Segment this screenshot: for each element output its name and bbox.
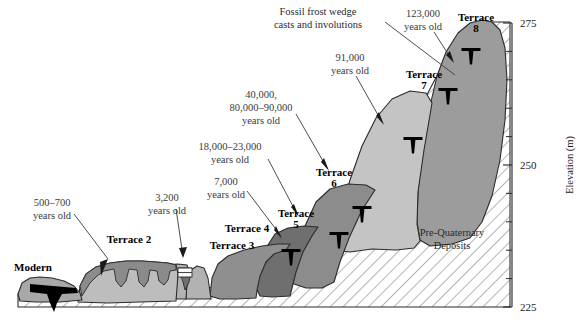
age-line-1: 7,000 — [214, 176, 238, 187]
age-line-2: years old — [331, 65, 370, 76]
age-line-1: 123,000 — [406, 8, 440, 19]
axis-label-elevation: Elevation (m) — [564, 135, 576, 194]
age-line-1: 3,200 — [155, 192, 179, 203]
age-line-2: years old — [211, 154, 250, 165]
label-terrace-3: Terrace 3 — [210, 239, 255, 251]
age-line-2: years old — [33, 210, 72, 221]
annotation-line-2: casts and involutions — [274, 19, 362, 30]
annotation-line-1: Fossil frost wedge — [280, 6, 357, 17]
age-line-1: 500–700 — [34, 197, 71, 208]
label-terrace-2: Terrace 2 — [107, 233, 152, 245]
annotation-line-1: Pre-Quaternary — [420, 227, 485, 238]
terrace-cross-section-figure: 275 250 225 Elevation (m) Modern Terrace… — [0, 0, 585, 329]
label-terrace-7-number: 7 — [421, 79, 427, 91]
age-line-1: 18,000–23,000 — [199, 141, 262, 152]
axis-tick-275: 275 — [520, 17, 537, 29]
age-line-1: 40,000, — [245, 89, 277, 100]
age-line-3: years old — [242, 115, 281, 126]
axis-tick-250: 250 — [520, 159, 537, 171]
annotation-line-2: Deposits — [434, 240, 471, 251]
age-line-1: 91,000 — [336, 52, 365, 63]
age-line-2: years old — [207, 189, 246, 200]
label-terrace-8-number: 8 — [473, 22, 479, 34]
age-line-2: years old — [404, 21, 443, 32]
label-terrace-5-number: 5 — [293, 218, 299, 230]
axis-tick-225: 225 — [520, 301, 537, 313]
label-terrace-4: Terrace 4 — [225, 222, 270, 234]
age-line-2: years old — [148, 205, 187, 216]
age-line-2: 80,000–90,000 — [230, 102, 293, 113]
label-modern: Modern — [14, 261, 52, 273]
label-terrace-6-number: 6 — [331, 177, 337, 189]
